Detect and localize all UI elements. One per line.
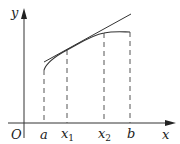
- tick-label-a: a: [40, 128, 48, 141]
- tick-label-b: b: [127, 127, 135, 140]
- tick-label-x1: x1: [61, 127, 74, 143]
- x-axis-label: x: [162, 128, 169, 141]
- tick-label-x2: x2: [98, 127, 111, 143]
- function-curve: [44, 32, 130, 70]
- tangent-line: [44, 14, 131, 62]
- y-axis-arrow-icon: [21, 8, 27, 19]
- y-axis-label: y: [11, 6, 18, 19]
- origin-label: O: [11, 128, 22, 141]
- diagram-graphics: [0, 0, 180, 144]
- function-diagram: y x O a x1 x2 b: [0, 0, 180, 144]
- x-axis-arrow-icon: [165, 120, 176, 126]
